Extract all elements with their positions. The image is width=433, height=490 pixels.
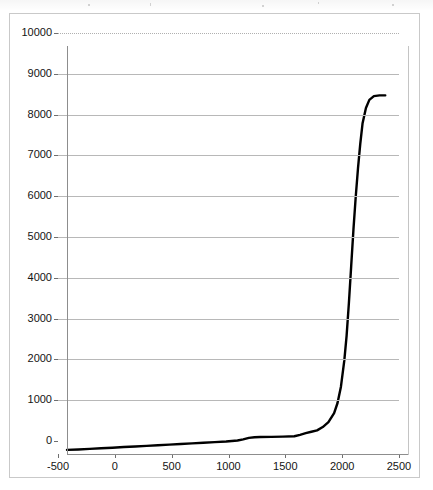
gridline: [58, 155, 399, 156]
gridline: [58, 359, 399, 360]
plot-right-edge: [408, 46, 409, 455]
scan-fleck: [262, 5, 264, 7]
x-axis-line: [67, 454, 409, 455]
scan-fleck: [392, 4, 394, 6]
x-tick-mark: [58, 454, 59, 458]
y-tick-mark: [54, 155, 58, 156]
y-tick-mark: [54, 196, 58, 197]
gridline: [58, 319, 399, 320]
scan-noise-strip: [0, 0, 433, 11]
y-tick-mark: [54, 400, 58, 401]
x-tick-label: 1000: [199, 461, 259, 472]
y-tick-label: 8000: [6, 109, 52, 120]
y-tick-label: 3000: [6, 313, 52, 324]
y-tick-label: 7000: [6, 149, 52, 160]
y-tick-mark: [54, 441, 58, 442]
y-axis-line: [67, 46, 68, 455]
gridline: [58, 278, 399, 279]
y-tick-mark: [54, 319, 58, 320]
y-tick-label: 9000: [6, 68, 52, 79]
y-tick-mark: [54, 237, 58, 238]
gridline: [58, 400, 399, 401]
x-tick-label: 0: [85, 461, 145, 472]
y-tick-mark: [54, 33, 58, 34]
gridline: [58, 33, 399, 34]
y-tick-mark: [54, 115, 58, 116]
x-tick-label: 1500: [255, 461, 315, 472]
series-line-path: [67, 95, 385, 450]
y-tick-label: 0: [6, 435, 52, 446]
x-tick-label: 2500: [369, 461, 429, 472]
plot-area: [67, 46, 408, 454]
scan-fleck: [150, 3, 151, 6]
y-tick-mark: [54, 74, 58, 75]
x-tick-label: -500: [28, 461, 88, 472]
gridline: [58, 74, 399, 75]
y-tick-mark: [54, 359, 58, 360]
y-tick-label: 2000: [6, 353, 52, 364]
x-tick-label: 500: [142, 461, 202, 472]
y-tick-mark: [54, 278, 58, 279]
y-tick-label: 10000: [6, 27, 52, 38]
y-tick-label: 4000: [6, 272, 52, 283]
chart-frame: 1000090008000700060005000400030002000100…: [9, 13, 420, 478]
gridline: [58, 115, 399, 116]
scan-fleck: [318, 2, 319, 4]
gridline: [58, 237, 399, 238]
y-tick-label: 5000: [6, 231, 52, 242]
scan-fleck: [88, 4, 90, 6]
series-svg: [67, 46, 408, 454]
gridline: [58, 196, 399, 197]
x-tick-label: 2000: [312, 461, 372, 472]
y-tick-label: 6000: [6, 190, 52, 201]
y-tick-label: 1000: [6, 394, 52, 405]
